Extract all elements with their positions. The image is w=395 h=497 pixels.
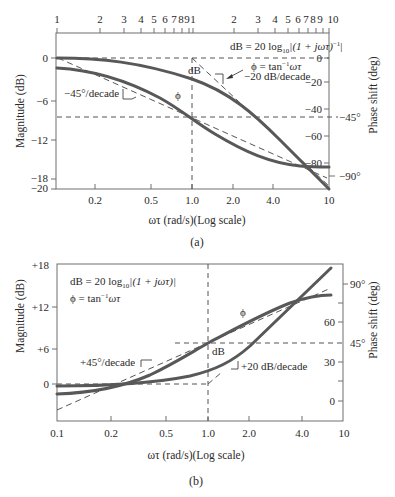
- equation-db: dB = 20 log10|(1 + jωτ)|: [70, 275, 176, 290]
- y-tick-label: 0: [43, 52, 49, 64]
- y-axis-label: Magnitude (dB): [14, 74, 27, 148]
- top-tick-label: 4: [138, 13, 144, 25]
- top-tick-label: 1: [54, 13, 60, 25]
- y-tick-label: +6: [37, 343, 49, 355]
- y2-axis-label: Phase shift (deg): [367, 56, 380, 133]
- y2-axis-label: Phase shift (deg): [367, 281, 380, 358]
- plot-a-bottom-axis: 0.2 0.5 1.0 2.0 4.0 10 ωτ (rad/s)(Log sc…: [88, 184, 335, 249]
- y2-tick-label: 30: [324, 356, 336, 368]
- arrowhead-icon: [226, 74, 233, 79]
- x-axis-label: ωτ (rad/s)(Log scale): [148, 214, 245, 227]
- x-tick-label: 1.0: [185, 194, 199, 206]
- y2-tick-label: 45°: [350, 337, 365, 349]
- phase-slope-marker: [123, 89, 136, 99]
- top-tick-label: 9: [317, 13, 323, 25]
- top-tick-label: 1: [190, 13, 196, 25]
- top-tick-label: 6: [162, 13, 168, 25]
- plot-a-left-axis: 0 −6 −12 −18 −20 Magnitude (dB): [14, 52, 56, 194]
- top-tick-label: 3: [255, 13, 261, 25]
- top-tick-label: 3: [121, 13, 127, 25]
- top-tick-label: 2: [231, 13, 237, 25]
- top-tick-label: 10: [328, 13, 340, 25]
- y2-tick-label: −40: [305, 103, 323, 115]
- top-tick-label: 8: [310, 13, 316, 25]
- plot-a-right-axis: 0 −20 −40 −60 −80 −45° −90° Phase shift …: [305, 52, 380, 182]
- plot-b: +18 +12 +6 0 Magnitude (dB) 90° 60 45° 3…: [14, 259, 380, 488]
- x-tick-label: 2.0: [242, 427, 256, 439]
- x-tick-label: 1.0: [201, 427, 215, 439]
- plot-b-bottom-axis: 0.1 0.2 0.5 1.0 2.0 4.0 10 ωτ (rad/s)(Lo…: [50, 416, 350, 488]
- x-tick-label: 0.5: [159, 427, 173, 439]
- figure-caption-a: (a): [190, 235, 203, 249]
- phase-slope-marker: [141, 360, 152, 367]
- x-tick-label: 0.2: [88, 194, 102, 206]
- db-curve-label: dB: [212, 345, 225, 357]
- db-slope-label: −20 dB/decade: [244, 70, 310, 82]
- phase-curve-label: ϕ: [240, 306, 246, 318]
- plot-a-top-axis: 1 2 3 4 5 6 7 8 9 1 2 3 4 5 6 7 8 9 10: [54, 13, 339, 33]
- top-tick-label: 4: [272, 13, 278, 25]
- phase-curve-label: ϕ: [175, 89, 181, 101]
- db-slope-label: +20 dB/decade: [241, 360, 307, 372]
- db-curve-label: dB: [188, 64, 201, 76]
- db-slope-marker: [231, 361, 238, 369]
- y-tick-label: +18: [32, 259, 50, 271]
- y2-tick-label: −60: [305, 130, 323, 142]
- top-tick-label: 5: [285, 13, 291, 25]
- x-axis-label: ωτ (rad/s)(Log scale): [147, 449, 244, 462]
- bode-plots-figure: 1 2 3 4 5 6 7 8 9 1 2 3 4 5 6 7 8 9 10: [0, 0, 395, 497]
- figure-caption-b: (b): [189, 474, 203, 488]
- phase-slope-label: −45°/decade: [64, 87, 119, 99]
- plot-b-frame: [57, 264, 343, 421]
- equation-db: dB = 20 log10|(1 + jωτ)−1|: [230, 40, 343, 55]
- equation-phase: ϕ = tan−1ωτ: [70, 292, 121, 304]
- y-tick-label: −12: [31, 134, 48, 146]
- x-tick-label: 4.0: [295, 427, 309, 439]
- y2-outer-label: −90°: [339, 170, 361, 182]
- phase-slope-label: +45°/decade: [80, 356, 135, 368]
- y-axis-label: Magnitude (dB): [14, 279, 27, 353]
- x-tick-label: 10: [324, 194, 336, 206]
- y-tick-label: −20: [31, 182, 49, 194]
- db-asymptote: [208, 372, 222, 384]
- x-tick-label: 0.2: [104, 427, 118, 439]
- db-slope-marker: [215, 74, 223, 84]
- y2-outer-label: −45°: [339, 111, 361, 123]
- x-tick-label: 0.5: [144, 194, 158, 206]
- y-tick-label: 0: [44, 378, 50, 390]
- top-tick-label: 2: [97, 13, 103, 25]
- x-tick-label: 4.0: [266, 194, 280, 206]
- x-tick-label: 10: [339, 427, 351, 439]
- x-tick-label: 0.1: [50, 427, 64, 439]
- phase-curve: [57, 295, 331, 394]
- top-tick-label: 5: [151, 13, 157, 25]
- y-tick-label: +12: [32, 301, 49, 313]
- plot-a: 1 2 3 4 5 6 7 8 9 1 2 3 4 5 6 7 8 9 10: [14, 13, 380, 249]
- top-tick-label: 7: [303, 13, 309, 25]
- y2-tick-label: 0: [330, 395, 336, 407]
- plot-b-left-axis: +18 +12 +6 0 Magnitude (dB): [14, 259, 57, 390]
- y-tick-label: −6: [36, 95, 48, 107]
- y2-tick-label: 90°: [350, 278, 365, 290]
- top-tick-label: 7: [171, 13, 177, 25]
- y2-tick-label: 60: [324, 316, 336, 328]
- x-tick-label: 2.0: [226, 194, 240, 206]
- top-tick-label: 6: [295, 13, 301, 25]
